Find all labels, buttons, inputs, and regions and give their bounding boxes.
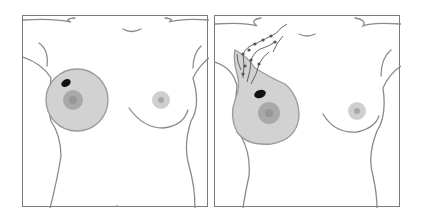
torso-illustration-right	[215, 16, 401, 208]
torso-illustration-left	[23, 16, 209, 208]
panel-left-diagram	[22, 15, 208, 207]
panel-right-diagram	[214, 15, 400, 207]
